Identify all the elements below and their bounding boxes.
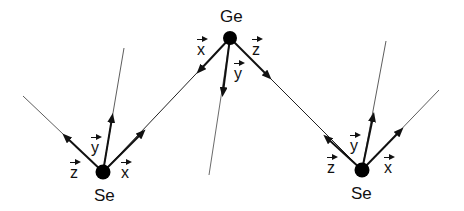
atom-ge: [223, 31, 237, 45]
axis-label-se-right-y: y: [350, 138, 358, 154]
se-right-x-arrow: [362, 131, 400, 170]
axis-label-se-left-x: x: [121, 165, 129, 181]
ge-y-arrow: [223, 38, 230, 92]
axis-label-ge-z: z: [252, 42, 260, 58]
axis-label-se-left-y: y: [91, 140, 99, 156]
axis-label-se-right-z: z: [327, 160, 335, 176]
axis-label-ge-x: x: [197, 42, 205, 58]
axis-label-se-right-x: x: [384, 160, 392, 176]
atom-label-se-left: Se: [94, 187, 115, 204]
diagram-canvas: Ge x z y Se z y x Se z y x: [0, 0, 464, 211]
atom-label-ge: Ge: [220, 8, 243, 25]
se-right-y-arrow: [362, 117, 373, 170]
atom-label-se-right: Se: [351, 185, 372, 202]
axis-label-se-left-z: z: [70, 165, 78, 181]
atom-se-left: [96, 165, 111, 180]
atom-se-right: [355, 163, 370, 178]
axis-label-ge-y: y: [234, 66, 242, 82]
